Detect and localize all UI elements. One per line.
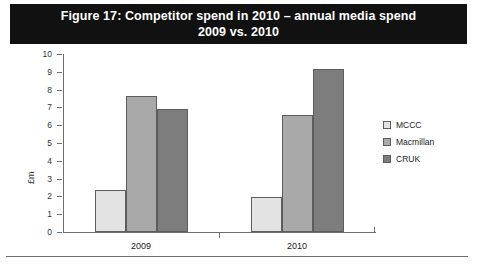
chart-title-line-2: 2009 vs. 2010 bbox=[198, 24, 279, 40]
y-axis-tick bbox=[57, 196, 62, 197]
y-axis-tick-label: 1 bbox=[47, 209, 52, 219]
y-axis-tick bbox=[57, 179, 62, 180]
y-axis-tick bbox=[57, 90, 62, 91]
y-axis-tick bbox=[57, 143, 62, 144]
bottom-divider bbox=[6, 256, 468, 257]
y-axis-tick-label: 8 bbox=[47, 85, 52, 95]
legend-label: Macmillan bbox=[396, 137, 434, 147]
chart-legend: MCCCMacmillanCRUK bbox=[383, 120, 434, 164]
bar-cruk-2009 bbox=[157, 109, 188, 232]
legend-swatch-icon bbox=[383, 138, 391, 146]
y-axis-tick-label: 4 bbox=[47, 156, 52, 166]
y-axis-tick-label: 5 bbox=[47, 138, 52, 148]
bar-macmillan-2009 bbox=[126, 96, 157, 232]
y-axis-tick-label: 7 bbox=[47, 102, 52, 112]
y-axis-tick-label: 0 bbox=[47, 227, 52, 237]
bar-mccc-2010 bbox=[251, 197, 282, 232]
y-axis-tick-label: 6 bbox=[47, 120, 52, 130]
legend-label: MCCC bbox=[396, 120, 422, 130]
y-axis-tick bbox=[57, 161, 62, 162]
y-axis-tick bbox=[57, 107, 62, 108]
y-axis-tick-label: 9 bbox=[47, 67, 52, 77]
y-axis-tick bbox=[57, 232, 62, 233]
legend-swatch-icon bbox=[383, 121, 391, 129]
y-axis-tick-label: 3 bbox=[47, 174, 52, 184]
legend-swatch-icon bbox=[383, 155, 391, 163]
y-axis-tick bbox=[57, 125, 62, 126]
legend-label: CRUK bbox=[396, 154, 420, 164]
bar-macmillan-2010 bbox=[282, 115, 313, 232]
y-axis-tick bbox=[57, 214, 62, 215]
y-axis-tick-label: 10 bbox=[43, 49, 52, 59]
plot-region: 012345678910 bbox=[63, 54, 375, 232]
legend-item-mccc[interactable]: MCCC bbox=[383, 120, 434, 130]
y-axis-tick bbox=[57, 72, 62, 73]
legend-item-cruk[interactable]: CRUK bbox=[383, 154, 434, 164]
x-axis-category-label: 2009 bbox=[131, 241, 151, 251]
bar-cruk-2010 bbox=[313, 69, 344, 232]
chart-title-banner: Figure 17: Competitor spend in 2010 – an… bbox=[10, 4, 467, 44]
legend-item-macmillan[interactable]: Macmillan bbox=[383, 137, 434, 147]
x-axis-group-tick bbox=[219, 232, 220, 238]
chart-title-line-1: Figure 17: Competitor spend in 2010 – an… bbox=[61, 8, 417, 24]
y-axis-tick-label: 2 bbox=[47, 191, 52, 201]
y-axis-label: £m bbox=[26, 171, 36, 184]
bar-mccc-2009 bbox=[95, 190, 126, 232]
y-axis-tick bbox=[57, 54, 62, 55]
x-axis-category-label: 2010 bbox=[287, 241, 307, 251]
